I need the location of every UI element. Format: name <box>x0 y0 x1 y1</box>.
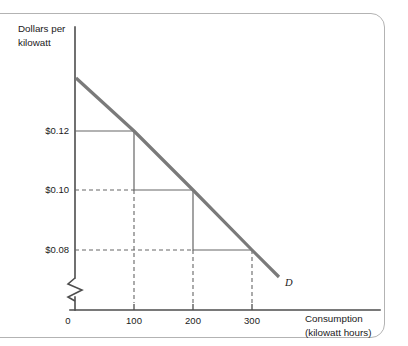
step-schedule-path <box>75 131 252 250</box>
y-tick-labels: $0.12 $0.10 $0.08 <box>45 125 69 255</box>
x-tick-label-2: 200 <box>185 315 201 326</box>
x-tick-label-3: 300 <box>244 315 260 326</box>
y-axis-title: Dollars per kilowatt <box>18 23 66 48</box>
demand-curve-path <box>76 78 279 277</box>
x-tick-label-0: 0 <box>65 315 70 326</box>
demand-curve-label: D <box>284 277 293 288</box>
y-tick-label-1: $0.10 <box>45 184 69 195</box>
x-axis-title-line-2: (kilowatt hours) <box>305 327 371 338</box>
chart-svg: $0.12 $0.10 $0.08 0 100 200 300 Dollars … <box>0 0 408 346</box>
demand-curve-chart: $0.12 $0.10 $0.08 0 100 200 300 Dollars … <box>0 0 408 346</box>
y-tick-label-2: $0.08 <box>45 244 69 255</box>
guide-lines-group <box>75 190 252 303</box>
x-tick-label-1: 100 <box>126 315 142 326</box>
step-schedule-group <box>75 131 252 250</box>
y-tick-label-0: $0.12 <box>45 125 69 136</box>
x-tick-marks <box>134 304 252 310</box>
y-axis-title-line-2: kilowatt <box>18 37 51 48</box>
axes-group <box>68 27 380 310</box>
x-axis-title-line-1: Consumption <box>305 313 363 324</box>
y-axis-title-line-1: Dollars per <box>18 23 66 34</box>
x-axis-title: Consumption (kilowatt hours) <box>305 313 371 338</box>
demand-curve-group <box>76 78 279 277</box>
x-tick-labels: 0 100 200 300 <box>65 315 260 326</box>
